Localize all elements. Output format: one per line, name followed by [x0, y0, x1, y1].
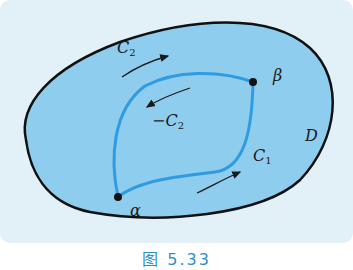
point-alpha — [114, 193, 122, 201]
point-beta — [249, 78, 257, 86]
label-alpha: α — [130, 203, 141, 219]
label-c2: C2 — [117, 40, 136, 58]
label-c1: C1 — [253, 148, 272, 166]
figure-caption: 图 5.33 — [0, 246, 353, 270]
label-region-d: D — [305, 128, 318, 144]
label-beta: β — [273, 68, 282, 84]
label-neg-c2: −C2 — [152, 113, 184, 131]
